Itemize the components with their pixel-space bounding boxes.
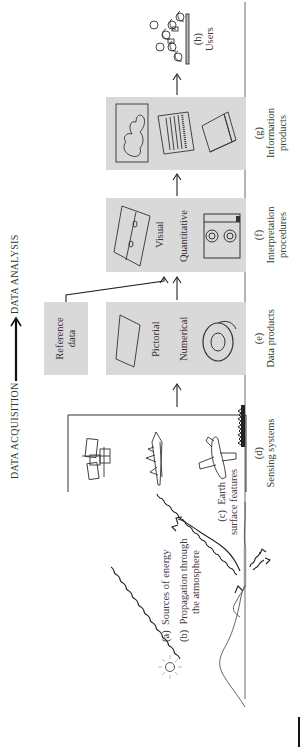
black-bar-mark — [298, 717, 300, 747]
label-h-text: Users — [204, 19, 216, 59]
label-h-users: (h) Users — [192, 19, 216, 59]
remote-sensing-diagram: DATA ACQUISITION DATA ANALYSIS — [0, 0, 300, 747]
tag-h: (h) — [192, 19, 204, 59]
users-icon — [0, 0, 300, 747]
